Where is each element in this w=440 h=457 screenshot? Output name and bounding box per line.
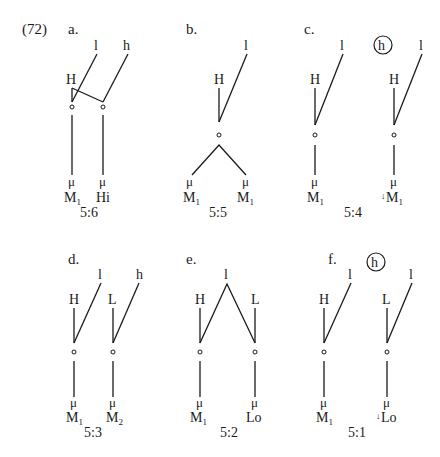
mora: μ [251,395,258,410]
tone-top-1: l [244,38,248,53]
register-1: H [214,72,224,87]
tone-top-2: h [123,38,130,53]
panel-a: a. l h H μ μ M1 Hi 5:6 [64,21,130,220]
assoc-line [113,283,139,343]
mora: μ [186,174,193,189]
surface-1: M1 [183,190,200,207]
tone-top-1: l [340,38,344,53]
mora: μ [390,174,397,189]
tone-node [253,350,257,354]
example-number: (72) [22,21,47,38]
mora: μ [70,395,77,410]
mora: μ [311,174,318,189]
tone-node [101,105,105,109]
tone-node [217,133,221,137]
panel-label: e. [186,251,196,267]
panel-e: e. l H L μ μ M1 Lo 5:2 [186,251,262,440]
tone-node [70,105,74,109]
assoc-line [387,283,412,343]
surface-2: M2 [106,410,123,427]
panel-label: a. [68,21,78,37]
tone-node [313,133,317,137]
mora: μ [196,395,203,410]
panel-label: f. [328,251,337,267]
panel-label: d. [68,251,79,267]
downstep-icon: ↓ [381,191,386,201]
tone-node [392,133,396,137]
register-1: H [69,292,79,307]
ratio: 5:2 [220,425,238,440]
register-2: L [108,292,117,307]
surface-2: Lo [381,410,397,425]
tone-top-2: h [136,267,143,282]
autosegmental-diagram: (72) a. l h H μ μ M1 Hi 5:6 b. l H μ μ M… [0,0,440,457]
tone-node [322,350,326,354]
tone-top-2: l [419,38,423,53]
mora: μ [242,174,249,189]
mora: μ [68,174,75,189]
tone-top-1: l [348,267,352,282]
register-2: H [389,72,399,87]
tone-top-2: l [409,267,413,282]
assoc-line [103,54,128,102]
assoc-branch [200,284,255,343]
ratio: 5:1 [348,425,366,440]
surface-2: Hi [96,190,110,205]
register-1: H [66,72,76,87]
surface-1: M1 [316,410,333,427]
circled-tone-label: h [378,38,385,53]
assoc-line [72,88,103,102]
ratio: 5:6 [80,205,98,220]
register-2: L [251,292,260,307]
panel-d: d. l h H L μ μ M1 M2 5:3 [66,251,143,440]
tone-node [111,350,115,354]
assoc-line [219,54,247,122]
panel-c: c. l h l H H μ μ M1 ↓ M1 5:4 [304,21,423,220]
assoc-line [394,54,422,125]
surface-2: M1 [237,190,254,207]
surface-1: M1 [64,190,81,207]
assoc-line [315,54,343,125]
ratio: 5:4 [344,205,362,220]
register-1: H [195,292,205,307]
tone-top-1: l [94,38,98,53]
circled-tone-label: h [371,255,378,270]
panel-label: b. [186,21,197,37]
panel-b: b. l H μ μ M1 M1 5:5 [183,21,254,220]
tone-top-1: l [98,267,102,282]
register-1: H [319,292,329,307]
mora: μ [320,395,327,410]
mora: μ [383,395,390,410]
tone-top-1: l [224,267,228,282]
tone-node [72,350,76,354]
downstep-icon: ↓ [376,411,381,421]
tone-node [198,350,202,354]
register-2: L [382,292,391,307]
tone-node [385,350,389,354]
surface-1: M1 [190,410,207,427]
mora: μ [99,174,106,189]
surface-2: Lo [246,410,262,425]
mora: μ [109,395,116,410]
surface-1: M1 [66,410,83,427]
surface-1: M1 [307,190,324,207]
register-1: H [310,72,320,87]
ratio: 5:5 [209,205,227,220]
panel-f: f. l h l H L μ μ M1 ↓ Lo 5:1 [316,251,413,440]
panel-label: c. [304,21,314,37]
surface-2: M1 [386,190,403,207]
assoc-branch [192,145,246,175]
ratio: 5:3 [84,425,102,440]
